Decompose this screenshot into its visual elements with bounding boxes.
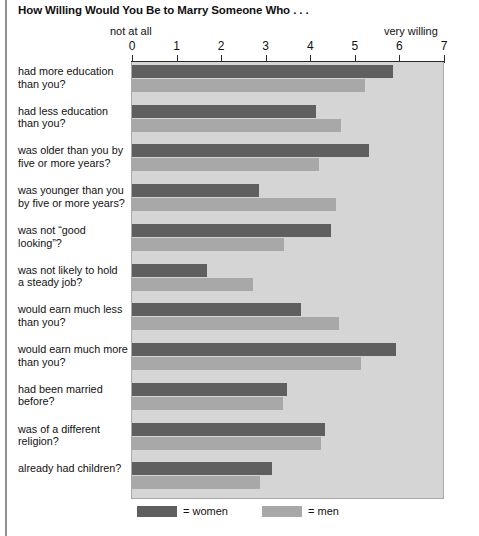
row-label-line: had more education [18,65,130,78]
row-bars [132,459,444,499]
chart-figure: How Willing Would You Be to Marry Someon… [0,0,479,536]
bar-women [132,105,316,118]
row-label-line: already had children? [18,462,130,475]
x-tick-label-7: 7 [434,39,454,53]
row-label-line: was not likely to hold [18,264,130,277]
row-label-line: would earn much more [18,343,130,356]
x-tick-label-0: 0 [122,39,142,53]
chart-row: would earn much morethan you? [0,340,479,380]
legend-swatch-men [262,506,302,517]
x-axis-tick-labels: 01234567 [0,39,479,54]
chart-row: was not “good looking”? [0,221,479,261]
bar-men [132,317,339,330]
bar-women [132,264,207,277]
row-label-line: a steady job? [18,276,130,289]
chart-row: would earn much lessthan you? [0,300,479,340]
x-tick-label-1: 1 [167,39,187,53]
row-label: was not “good looking”? [18,224,130,249]
chart-row: had more educationthan you? [0,62,479,102]
bar-men [132,198,336,211]
row-bars [132,102,444,142]
row-label: had been marriedbefore? [18,383,130,408]
bar-men [132,476,260,489]
chart-row: had been marriedbefore? [0,380,479,420]
bar-men [132,437,321,450]
row-label-line: by five or more years? [18,197,130,210]
row-label-line: than you? [18,117,130,130]
row-label-line: was younger than you [18,184,130,197]
chart-rows: had more educationthan you?had less educ… [0,62,479,499]
bar-women [132,383,287,396]
row-label-line: was older than you by [18,144,130,157]
bar-women [132,423,325,436]
row-bars [132,420,444,460]
row-label-line: five or more years? [18,157,130,170]
legend-label-women: = women [183,505,228,517]
row-bars [132,380,444,420]
bar-women [132,343,396,356]
row-bars [132,261,444,301]
chart-title: How Willing Would You Be to Marry Someon… [18,4,309,16]
bar-women [132,224,331,237]
row-label: was of a differentreligion? [18,423,130,448]
bar-men [132,119,341,132]
row-label-line: had less education [18,105,130,118]
row-label: had less educationthan you? [18,105,130,130]
x-tick-label-3: 3 [256,39,276,53]
x-tick-label-5: 5 [345,39,365,53]
row-label: was younger than youby five or more year… [18,184,130,209]
row-bars [132,221,444,261]
legend-item-women: = women [137,505,228,517]
row-label: was older than you byfive or more years? [18,144,130,169]
chart-row: was of a differentreligion? [0,420,479,460]
bar-women [132,303,301,316]
bar-women [132,462,272,475]
legend-swatch-women [137,506,177,517]
chart-row: already had children? [0,459,479,499]
bar-men [132,79,365,92]
row-label: had more educationthan you? [18,65,130,90]
bar-women [132,65,393,78]
bar-men [132,238,284,251]
axis-low-label: not at all [110,25,152,37]
bar-men [132,278,253,291]
chart-row: was younger than youby five or more year… [0,181,479,221]
row-bars [132,181,444,221]
bar-men [132,158,319,171]
row-label: would earn much lessthan you? [18,303,130,328]
row-label-line: had been married [18,383,130,396]
row-label-line: would earn much less [18,303,130,316]
row-bars [132,141,444,181]
row-label: was not likely to holda steady job? [18,264,130,289]
row-label-line: than you? [18,316,130,329]
bar-women [132,184,259,197]
row-label: would earn much morethan you? [18,343,130,368]
bar-women [132,144,369,157]
row-label-line: religion? [18,435,130,448]
chart-legend: = women = men [131,505,444,527]
row-label-line: was of a different [18,423,130,436]
bar-men [132,397,283,410]
row-label-line: was not “good looking”? [18,224,130,249]
row-bars [132,340,444,380]
row-bars [132,62,444,102]
chart-row: was not likely to holda steady job? [0,261,479,301]
row-label-line: than you? [18,356,130,369]
row-bars [132,300,444,340]
row-label-line: than you? [18,78,130,91]
row-label-line: before? [18,395,130,408]
legend-label-men: = men [308,505,339,517]
x-tick-label-6: 6 [389,39,409,53]
row-label: already had children? [18,462,130,475]
bar-men [132,357,361,370]
x-tick-label-4: 4 [300,39,320,53]
x-tick-label-2: 2 [211,39,231,53]
axis-high-label: very willing [384,25,438,37]
legend-item-men: = men [262,505,339,517]
chart-row: had less educationthan you? [0,102,479,142]
chart-row: was older than you byfive or more years? [0,141,479,181]
